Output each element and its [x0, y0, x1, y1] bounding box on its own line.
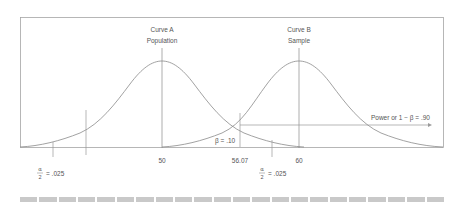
footer-block	[214, 197, 231, 202]
beta-label: β = .10	[215, 137, 236, 145]
alpha-right-label: α 2 = .025	[259, 166, 287, 180]
curve-b-label-1: Curve B	[287, 26, 310, 33]
footer-block	[136, 197, 153, 202]
critical-value-tick-label: 56.07	[232, 157, 249, 164]
arrow-head-icon	[428, 123, 432, 127]
footer-block	[175, 197, 192, 202]
footer-strip	[20, 197, 444, 202]
footer-block	[388, 197, 405, 202]
mean-b-tick-label: 60	[295, 157, 303, 164]
footer-block	[20, 197, 37, 202]
footer-block	[368, 197, 385, 202]
footer-block	[97, 197, 114, 202]
alpha-right-den: 2	[260, 174, 263, 180]
footer-block	[272, 197, 289, 202]
alpha-left-label: α 2 = .025	[37, 166, 65, 180]
footer-block	[427, 197, 444, 202]
curve-b-label-2: Sample	[288, 37, 310, 45]
footer-block	[310, 197, 327, 202]
footer-block	[78, 197, 95, 202]
footer-block	[59, 197, 76, 202]
footer-block	[39, 197, 56, 202]
power-diagram: Curve A Population Curve B Sample Power …	[0, 0, 465, 207]
alpha-right-value: = .025	[268, 170, 287, 177]
footer-block	[349, 197, 366, 202]
footer-block	[407, 197, 424, 202]
curve-a-label-1: Curve A	[150, 26, 174, 33]
alpha-left-den: 2	[38, 174, 41, 180]
footer-block	[117, 197, 134, 202]
alpha-right-num: α	[260, 166, 264, 172]
alpha-left-num: α	[38, 166, 42, 172]
power-label: Power or 1 − β = .90	[371, 114, 430, 122]
footer-block	[156, 197, 173, 202]
curve-a-label-2: Population	[147, 37, 178, 45]
footer-block	[291, 197, 308, 202]
footer-block	[330, 197, 347, 202]
mean-a-tick-label: 50	[158, 157, 166, 164]
alpha-left-value: = .025	[46, 170, 65, 177]
curve-b	[162, 61, 443, 147]
footer-block	[252, 197, 269, 202]
plot-frame	[21, 18, 444, 148]
footer-block	[233, 197, 250, 202]
footer-block	[194, 197, 211, 202]
